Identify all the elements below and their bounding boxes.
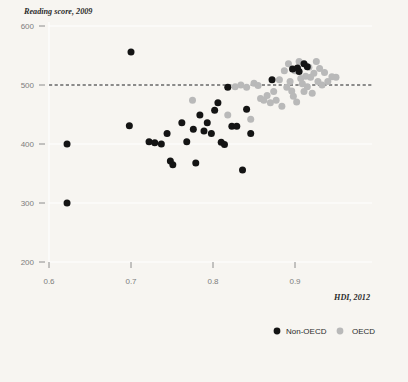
data-point [151, 139, 158, 146]
data-point [247, 130, 254, 137]
data-point [183, 138, 190, 145]
y-tick-label-400: 400 [21, 140, 35, 149]
data-point [192, 159, 199, 166]
legend-label-non-oecd: Non-OECD [286, 327, 327, 336]
data-point [247, 116, 254, 123]
y-tick-label-300: 300 [21, 199, 35, 208]
x-tick-label-0.8: 0.8 [207, 277, 219, 286]
data-point [169, 161, 176, 168]
data-point [296, 68, 303, 75]
data-point [64, 200, 71, 207]
data-point [208, 130, 215, 137]
data-point [211, 107, 218, 114]
data-point [178, 119, 185, 126]
data-point [273, 97, 280, 104]
data-point [304, 83, 311, 90]
data-point [239, 166, 246, 173]
data-point [313, 58, 320, 65]
data-point [278, 103, 285, 110]
data-point [243, 84, 250, 91]
y-tick-label-600: 600 [21, 22, 35, 31]
chart-legend: Non-OECD OECD [274, 327, 376, 336]
legend-marker-non-oecd [274, 328, 281, 335]
y-tick-label-200: 200 [21, 258, 35, 267]
data-point [189, 97, 196, 104]
data-point [287, 78, 294, 85]
legend-label-oecd: OECD [352, 327, 375, 336]
data-point [214, 99, 221, 106]
data-point [290, 93, 297, 100]
data-point [333, 74, 340, 81]
data-point [309, 90, 316, 97]
legend-marker-oecd [337, 328, 344, 335]
data-point [310, 70, 317, 77]
data-point [190, 126, 197, 133]
chart-background [0, 0, 408, 382]
data-point [158, 141, 165, 148]
data-point [281, 67, 288, 74]
data-point [243, 106, 250, 113]
data-point [128, 48, 135, 55]
x-axis-title: HDI, 2012 [333, 293, 370, 302]
data-point [196, 112, 203, 119]
data-point [164, 130, 171, 137]
data-point [64, 141, 71, 148]
data-point [200, 128, 207, 135]
data-point [224, 84, 231, 91]
data-point [293, 99, 300, 106]
y-axis-title: Reading score, 2009 [23, 7, 92, 16]
data-point [304, 63, 311, 70]
data-point [255, 82, 262, 89]
scatter-chart: 200300400500600 0.60.70.80.9 Reading sco… [0, 0, 408, 382]
data-point [233, 123, 240, 130]
data-point [264, 92, 271, 99]
y-tick-label-500: 500 [21, 81, 35, 90]
x-tick-label-0.9: 0.9 [289, 277, 301, 286]
data-point [269, 76, 276, 83]
data-point [204, 119, 211, 126]
chart-canvas: 200300400500600 0.60.70.80.9 Reading sco… [0, 0, 408, 382]
x-tick-label-0.6: 0.6 [43, 277, 55, 286]
data-point [221, 141, 228, 148]
data-point [126, 122, 133, 129]
data-point [270, 88, 277, 95]
x-tick-label-0.7: 0.7 [125, 277, 137, 286]
data-point [224, 112, 231, 119]
data-point [276, 76, 283, 83]
data-point [321, 69, 328, 76]
